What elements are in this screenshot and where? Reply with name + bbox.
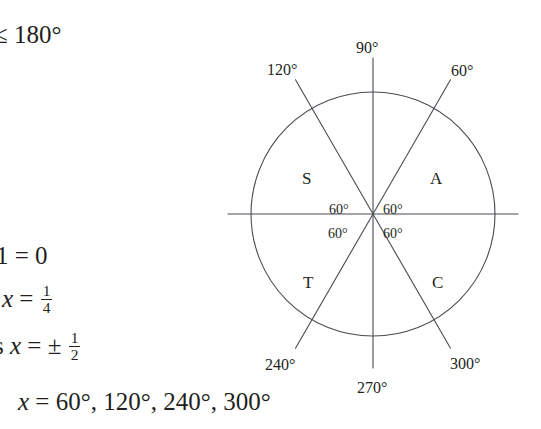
fraction-denominator: 4 [41,299,53,316]
quadrant-label-tangent: T [303,274,313,291]
label-120-degrees: 120° [267,62,297,78]
cast-circle-diagram: 90° 120° 60° 240° 270° 300° 60° 60° 60° … [210,18,541,412]
math-equals: = [19,285,33,312]
label-240-degrees: 240° [265,357,295,373]
inner-angle-bottom-left: 60° [328,227,348,241]
math-line-inequality: ≤ 180° [0,22,61,47]
math-equals-plusminus: = ± [27,332,61,359]
cast-circle-svg [210,18,541,412]
inner-angle-bottom-right: 60° [383,227,403,241]
label-270-degrees: 270° [357,380,387,396]
quadrant-label-all: A [430,170,442,187]
math-fraction-one-half: 1 2 [69,330,81,363]
math-fraction-one-quarter: 1 4 [41,283,53,316]
quadrant-label-cosine: C [432,274,443,291]
math-variable: x [18,388,29,415]
math-line-equation-zero: 1 = 0 [0,243,48,268]
label-90-degrees: 90° [356,40,378,56]
math-equation-zero-text: 1 = 0 [0,242,48,269]
fraction-numerator: 1 [69,330,81,346]
ray-120 [296,80,374,214]
math-variable: x [2,285,13,312]
math-line-cos-squared: ² x = 1 4 [0,283,53,316]
quadrant-label-sine: S [302,170,311,187]
label-60-degrees: 60° [451,63,473,79]
ray-60 [373,80,451,214]
inner-angle-top-left: 60° [329,203,349,217]
math-line-cos-pm-half: s x = ± 1 2 [0,330,81,363]
page-canvas: ≤ 180° 1 = 0 ² x = 1 4 s x = ± 1 2 x = 6… [0,0,541,429]
math-line-prefix: s [0,332,4,359]
label-300-degrees: 300° [450,356,480,372]
fraction-denominator: 2 [69,346,81,363]
fraction-numerator: 1 [41,283,53,299]
math-variable: x [10,332,21,359]
math-inequality-text: ≤ 180° [0,21,61,48]
inner-angle-top-right: 60° [383,203,403,217]
